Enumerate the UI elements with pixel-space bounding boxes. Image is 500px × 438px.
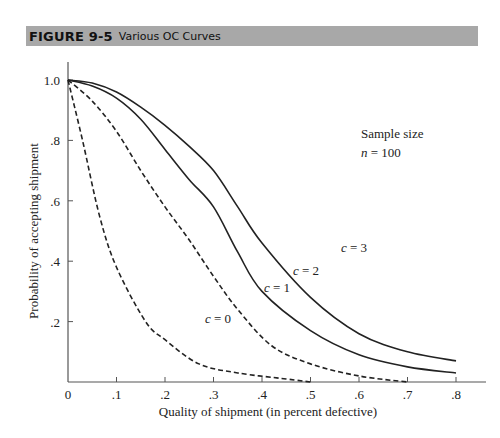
x-tick-label: .2 xyxy=(160,387,170,402)
x-tick-label: .7 xyxy=(403,387,413,402)
x-tick-label: .6 xyxy=(354,387,364,402)
y-axis-title: Probability of accepting shipment xyxy=(26,143,41,319)
oc-curve-c1 xyxy=(68,80,408,382)
curve-label-c1: c = 1 xyxy=(264,280,290,295)
oc-curve-c3 xyxy=(68,80,456,361)
oc-curves-chart: 0.1.2.3.4.5.6.7.81.0.8.6.4.2 c = 0c = 1c… xyxy=(0,0,500,438)
x-axis-title: Quality of shipment (in percent defectiv… xyxy=(159,404,377,419)
x-tick-label: .3 xyxy=(209,387,219,402)
y-tick-label: .6 xyxy=(50,194,60,209)
axes: 0.1.2.3.4.5.6.7.81.0.8.6.4.2 xyxy=(44,62,486,402)
sample-size-value: n = 100 xyxy=(361,145,401,160)
sample-size-label: Sample size xyxy=(361,126,424,141)
y-tick-label: .4 xyxy=(50,254,60,269)
x-tick-label: .8 xyxy=(451,387,461,402)
oc-curve-c0 xyxy=(68,80,311,382)
curve-label-c3: c = 3 xyxy=(341,240,367,255)
y-tick-label: 1.0 xyxy=(44,73,60,88)
x-tick-label: .5 xyxy=(306,387,316,402)
x-tick-label: .1 xyxy=(112,387,122,402)
y-tick-label: .8 xyxy=(50,133,60,148)
curve-label-c0: c = 0 xyxy=(205,311,231,326)
x-tick-label: .4 xyxy=(257,387,267,402)
x-tick-label: 0 xyxy=(65,387,72,402)
y-tick-label: .2 xyxy=(50,315,60,330)
curve-label-c2: c = 2 xyxy=(293,263,319,278)
oc-curve-c2 xyxy=(68,80,456,373)
